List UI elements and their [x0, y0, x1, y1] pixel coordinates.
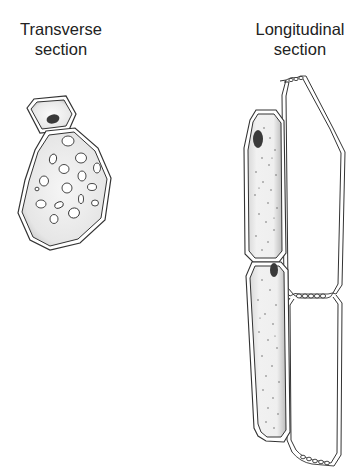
- nucleus-icon: [253, 130, 263, 148]
- companion-cell-upper: [244, 110, 286, 262]
- sieve-plate-top: [286, 76, 306, 82]
- nucleus-icon: [270, 263, 278, 277]
- sieve-plate-bottom: [292, 450, 334, 466]
- longitudinal-section: [244, 76, 345, 466]
- companion-cell-lower: [246, 262, 290, 442]
- sieve-tube-element-transverse: [18, 128, 111, 250]
- transverse-section: [18, 96, 111, 250]
- sieve-tube-element-upper: [280, 76, 345, 296]
- sieve-tube-element-lower: [286, 295, 342, 466]
- phloem-diagram: [0, 0, 355, 473]
- sieve-plate-middle: [290, 293, 336, 298]
- companion-cell-transverse: [27, 96, 76, 133]
